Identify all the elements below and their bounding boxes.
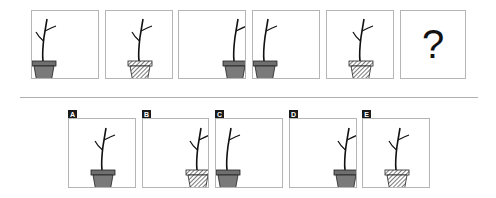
sequence-panel-5 — [326, 10, 394, 79]
sequence-panel-missing: ? — [400, 10, 466, 79]
divider — [20, 97, 478, 98]
option-c[interactable] — [215, 118, 283, 188]
plant-pot-striped-center-icon — [327, 11, 394, 79]
option-e[interactable] — [362, 118, 430, 188]
option-a[interactable] — [68, 118, 136, 188]
plant-pot-solid-center-icon — [69, 119, 136, 188]
plant-pot-solid-left-icon — [32, 11, 99, 79]
plant-pot-solid-right-icon — [290, 119, 357, 188]
option-d[interactable] — [289, 118, 357, 188]
plant-pot-solid-right-icon — [179, 11, 246, 79]
plant-pot-striped-right-icon — [143, 119, 209, 188]
sequence-panel-1 — [31, 10, 99, 79]
plant-pot-solid-left-icon — [216, 119, 283, 188]
question-mark: ? — [401, 11, 465, 78]
sequence-panel-3 — [178, 10, 246, 79]
sequence-panel-4 — [252, 10, 320, 79]
plant-pot-solid-left-icon — [253, 11, 320, 79]
sequence-panel-2 — [105, 10, 173, 79]
option-b[interactable] — [142, 118, 209, 188]
plant-pot-striped-center-icon — [363, 119, 430, 188]
plant-pot-striped-center-icon — [106, 11, 173, 79]
